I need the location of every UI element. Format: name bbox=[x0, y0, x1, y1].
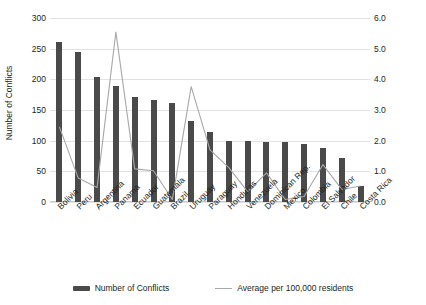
legend-label-line: Average per 100,000 residents bbox=[237, 283, 353, 293]
y-axis-right-tick: 4.0 bbox=[374, 75, 386, 84]
y-axis-right-ticks: 0.01.02.03.04.05.06.0 bbox=[372, 0, 398, 305]
y-axis-left-tick: 300 bbox=[32, 14, 46, 23]
y-axis-left-tick: 200 bbox=[32, 75, 46, 84]
bar-swatch-icon bbox=[73, 286, 90, 291]
legend-item-line: Average per 100,000 residents bbox=[215, 283, 353, 293]
plot-area bbox=[50, 18, 370, 202]
y-axis-right-tick: 6.0 bbox=[374, 14, 386, 23]
y-axis-left-tick: 250 bbox=[32, 45, 46, 54]
y-axis-left-tick: 150 bbox=[32, 106, 46, 115]
y-axis-right-tick: 1.0 bbox=[374, 167, 386, 176]
line-swatch-icon bbox=[215, 288, 232, 289]
line-series bbox=[50, 18, 370, 202]
y-axis-left-ticks: 050100150200250300 bbox=[22, 0, 48, 305]
y-axis-right-tick: 3.0 bbox=[374, 106, 386, 115]
y-axis-left-tick: 0 bbox=[41, 198, 46, 207]
y-axis-left-tick: 50 bbox=[37, 167, 46, 176]
chart-legend: Number of Conflicts Average per 100,000 … bbox=[0, 280, 426, 296]
category-axis-labels: BoliviaPeruArgentinaPanamaEcuadorGuatema… bbox=[50, 205, 370, 277]
legend-item-bars: Number of Conflicts bbox=[73, 283, 170, 293]
line-path bbox=[59, 32, 360, 199]
y-axis-right-tick: 5.0 bbox=[374, 45, 386, 54]
y-axis-left-title: Number of Conflicts bbox=[4, 43, 14, 163]
conflicts-chart: Number of Conflicts 050100150200250300 0… bbox=[0, 0, 426, 305]
legend-label-bars: Number of Conflicts bbox=[95, 283, 170, 293]
y-axis-left-tick: 100 bbox=[32, 137, 46, 146]
y-axis-right-tick: 2.0 bbox=[374, 137, 386, 146]
